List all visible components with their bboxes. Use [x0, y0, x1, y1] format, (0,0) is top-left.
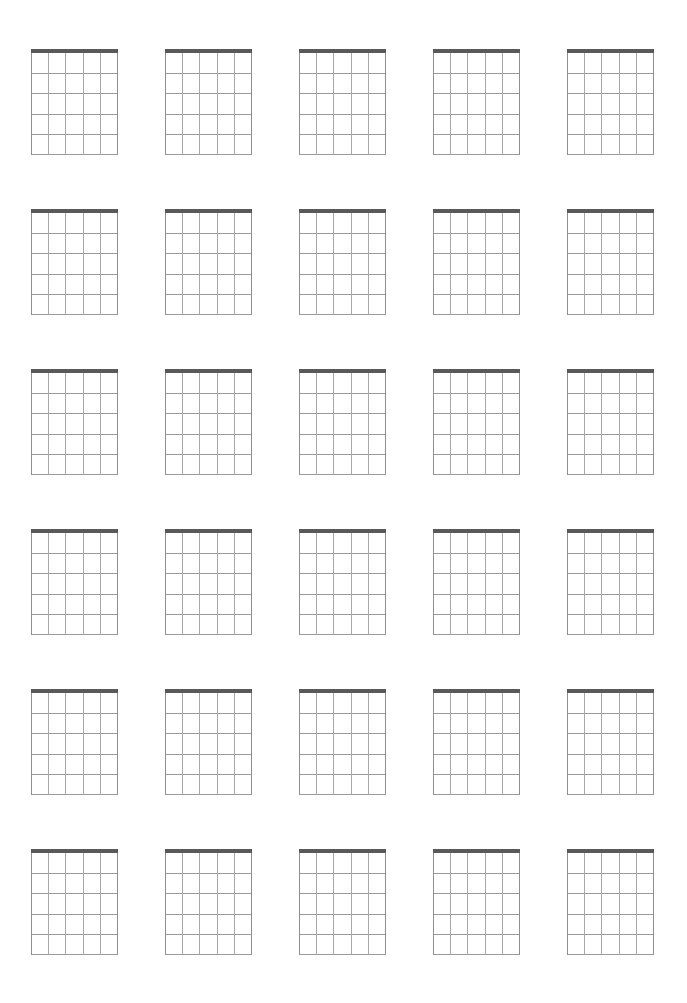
- chord-diagram[interactable]: [567, 49, 654, 155]
- chord-diagram[interactable]: [433, 209, 520, 315]
- string-line: [83, 213, 84, 315]
- fretboard: [567, 853, 654, 955]
- string-line: [567, 853, 568, 955]
- string-line: [619, 373, 620, 475]
- chord-diagram[interactable]: [299, 849, 386, 955]
- string-line: [100, 693, 101, 795]
- fret-line: [299, 713, 386, 714]
- string-line: [619, 53, 620, 155]
- string-line: [217, 53, 218, 155]
- chord-diagram[interactable]: [299, 689, 386, 795]
- fret-line: [165, 934, 252, 935]
- chord-diagram[interactable]: [165, 689, 252, 795]
- string-line: [584, 373, 585, 475]
- fret-line: [299, 914, 386, 915]
- fret-line: [567, 393, 654, 394]
- fret-line: [433, 294, 520, 295]
- chord-diagram[interactable]: [567, 689, 654, 795]
- fret-line: [31, 434, 118, 435]
- chord-diagram[interactable]: [433, 369, 520, 475]
- fretboard: [433, 53, 520, 155]
- string-line: [316, 373, 317, 475]
- string-line: [653, 213, 654, 315]
- fret-line: [567, 733, 654, 734]
- string-line: [653, 53, 654, 155]
- fret-line: [433, 93, 520, 94]
- chord-diagram[interactable]: [567, 209, 654, 315]
- string-line: [65, 53, 66, 155]
- string-line: [117, 213, 118, 315]
- chord-diagram[interactable]: [31, 529, 118, 635]
- fret-line: [567, 233, 654, 234]
- string-line: [182, 853, 183, 955]
- string-line: [485, 53, 486, 155]
- string-line: [450, 693, 451, 795]
- string-line: [385, 533, 386, 635]
- chord-diagram[interactable]: [433, 849, 520, 955]
- chord-diagram[interactable]: [433, 529, 520, 635]
- fretboard: [299, 693, 386, 795]
- string-line: [653, 373, 654, 475]
- string-line: [385, 373, 386, 475]
- fret-line: [433, 413, 520, 414]
- string-line: [368, 533, 369, 635]
- string-line: [48, 693, 49, 795]
- chord-diagram[interactable]: [299, 209, 386, 315]
- chord-diagram[interactable]: [299, 529, 386, 635]
- string-line: [636, 533, 637, 635]
- chord-diagram[interactable]: [433, 689, 520, 795]
- string-line: [316, 533, 317, 635]
- string-line: [165, 213, 166, 315]
- chord-diagram[interactable]: [299, 369, 386, 475]
- chord-diagram[interactable]: [433, 49, 520, 155]
- string-line: [31, 853, 32, 955]
- fret-line: [433, 393, 520, 394]
- chord-diagram[interactable]: [31, 209, 118, 315]
- chord-diagram[interactable]: [567, 529, 654, 635]
- fret-line: [567, 754, 654, 755]
- chord-diagram[interactable]: [567, 849, 654, 955]
- chord-diagram[interactable]: [31, 49, 118, 155]
- chord-diagram[interactable]: [165, 209, 252, 315]
- chord-diagram[interactable]: [31, 689, 118, 795]
- string-line: [485, 213, 486, 315]
- fret-line: [165, 434, 252, 435]
- string-line: [519, 373, 520, 475]
- fretboard: [299, 213, 386, 315]
- chord-diagram[interactable]: [567, 369, 654, 475]
- fret-line: [567, 134, 654, 135]
- chord-diagram[interactable]: [165, 849, 252, 955]
- chord-diagram[interactable]: [165, 529, 252, 635]
- chord-diagram[interactable]: [299, 49, 386, 155]
- fret-line: [31, 114, 118, 115]
- fret-line: [567, 954, 654, 955]
- fret-line: [567, 413, 654, 414]
- fret-line: [433, 794, 520, 795]
- fret-line: [567, 713, 654, 714]
- fret-line: [433, 73, 520, 74]
- chord-diagram[interactable]: [31, 849, 118, 955]
- string-line: [368, 53, 369, 155]
- fret-line: [165, 794, 252, 795]
- string-line: [333, 853, 334, 955]
- fret-line: [567, 93, 654, 94]
- string-line: [433, 853, 434, 955]
- string-line: [450, 53, 451, 155]
- fret-line: [31, 233, 118, 234]
- fret-line: [31, 474, 118, 475]
- chord-diagram[interactable]: [31, 369, 118, 475]
- chord-diagram[interactable]: [165, 369, 252, 475]
- fret-line: [165, 114, 252, 115]
- fret-line: [165, 93, 252, 94]
- fret-line: [299, 73, 386, 74]
- string-line: [100, 213, 101, 315]
- fret-line: [433, 154, 520, 155]
- chord-chart-sheet: [0, 0, 687, 1003]
- fret-line: [433, 434, 520, 435]
- fret-line: [31, 893, 118, 894]
- string-line: [117, 693, 118, 795]
- fret-line: [31, 774, 118, 775]
- chord-diagram[interactable]: [165, 49, 252, 155]
- string-line: [234, 53, 235, 155]
- string-line: [619, 213, 620, 315]
